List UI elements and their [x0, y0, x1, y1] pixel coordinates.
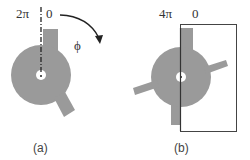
left-arm — [133, 80, 159, 95]
panel-a: 2π 0 ϕ (a) — [11, 6, 103, 155]
caption-a: (a) — [33, 141, 48, 155]
panel-b: 4π 0 (b) — [133, 6, 237, 155]
figure: 2π 0 ϕ (a) 4π 0 (b) — [0, 0, 250, 160]
label-phi: ϕ — [74, 38, 81, 53]
rotation-arrow — [60, 15, 99, 38]
label-2pi: 2π — [16, 6, 30, 21]
right-arm — [204, 60, 228, 74]
label-0-b: 0 — [192, 6, 199, 21]
center-point — [40, 75, 42, 77]
caption-b: (b) — [174, 141, 189, 155]
label-4pi: 4π — [159, 6, 173, 21]
label-0-a: 0 — [46, 6, 53, 21]
arrowhead-icon — [95, 35, 103, 44]
